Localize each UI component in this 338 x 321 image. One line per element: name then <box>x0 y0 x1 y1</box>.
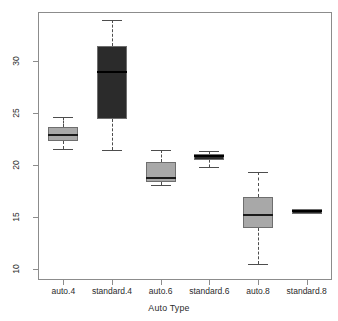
x-axis-tick-mark <box>307 280 308 285</box>
y-axis-tick-text: 15 <box>11 203 21 231</box>
y-axis-tick-label-25: 25 <box>2 108 30 118</box>
y-axis-tick-text: 20 <box>11 151 21 179</box>
x-axis-tick-mark <box>63 280 64 285</box>
boxplot-figure: 30 25 20 15 10 auto.4standard.4auto.6sta… <box>0 0 338 321</box>
y-axis-tick-text: 10 <box>11 255 21 283</box>
plot-area <box>39 13 331 279</box>
x-axis-title: Auto Type <box>0 303 338 313</box>
y-axis-tick-text: 30 <box>11 47 21 75</box>
x-axis-tick-mark <box>258 280 259 285</box>
y-axis-tick-text: 25 <box>11 99 21 127</box>
y-axis-tick-label-20: 20 <box>2 160 30 170</box>
y-axis-tick-label-15: 15 <box>2 212 30 222</box>
y-axis-tick-label-30: 30 <box>2 56 30 66</box>
y-axis-tick-label-10: 10 <box>2 264 30 274</box>
x-axis-tick-label-standard-8: standard.8 <box>277 286 337 297</box>
x-axis-tick-mark <box>161 280 162 285</box>
x-axis-tick-mark <box>112 280 113 285</box>
median-line <box>292 210 322 212</box>
boxplot-group-standard-8 <box>39 13 331 279</box>
x-axis-tick-mark <box>209 280 210 285</box>
